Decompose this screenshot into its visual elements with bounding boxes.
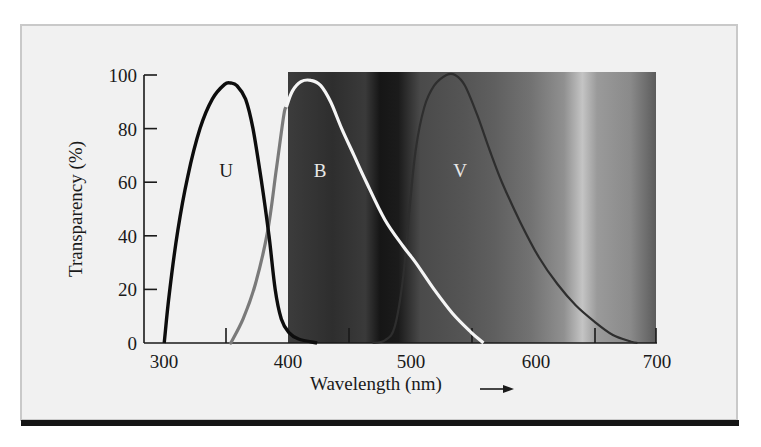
label-v: V <box>453 160 467 181</box>
label-b: B <box>314 160 327 181</box>
spectrum-band <box>288 72 656 343</box>
y-tick-60: 60 <box>118 172 137 193</box>
y-tick-0: 0 <box>128 333 138 354</box>
y-tick-100: 100 <box>109 65 138 86</box>
x-tick-300: 300 <box>150 351 179 372</box>
x-tick-700: 700 <box>643 351 672 372</box>
y-tick-40: 40 <box>118 226 137 247</box>
y-axis-title: Transparency (%) <box>65 141 87 277</box>
x-axis-title: Wavelength (nm) <box>310 373 442 395</box>
y-tick-80: 80 <box>118 119 137 140</box>
x-tick-labels: 300 400 500 600 700 <box>150 351 672 372</box>
transmission-chart: 0 20 40 60 80 100 300 400 500 600 700 Tr… <box>0 0 761 447</box>
label-u: U <box>219 160 233 181</box>
y-tick-labels: 0 20 40 60 80 100 <box>109 65 138 354</box>
y-tick-20: 20 <box>118 279 137 300</box>
y-axis <box>144 75 157 343</box>
arrow-right-icon <box>480 385 514 393</box>
x-tick-600: 600 <box>522 351 551 372</box>
x-tick-500: 500 <box>397 351 426 372</box>
x-tick-400: 400 <box>274 351 303 372</box>
